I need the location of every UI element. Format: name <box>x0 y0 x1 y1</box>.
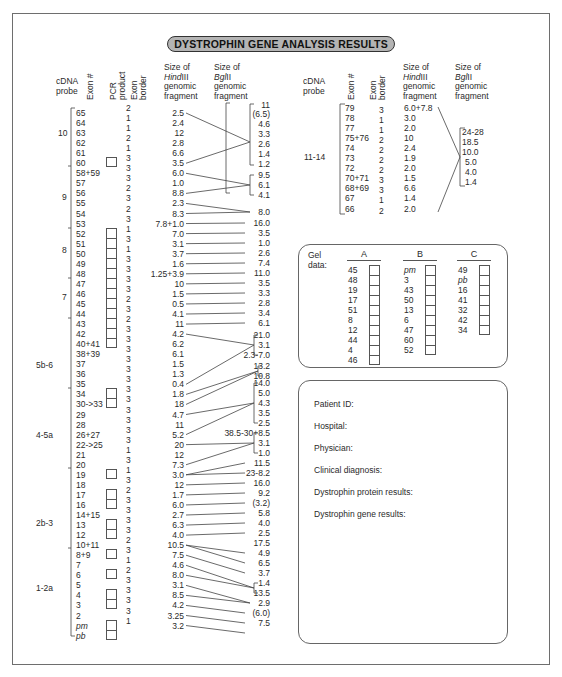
form-field-label[interactable]: Hospital: <box>314 421 347 431</box>
exon-label: 45 <box>76 299 85 309</box>
pcr-product-checkbox[interactable] <box>106 549 117 559</box>
exon-border-value: 3 <box>379 185 384 195</box>
hindiii-value: 4.2 <box>140 329 184 339</box>
gel-exon-label: 17 <box>348 295 357 305</box>
exon-border-value: 3 <box>126 354 131 364</box>
hindiii-value: 1.4 <box>404 193 416 203</box>
gel-result-checkbox-column[interactable] <box>479 265 490 335</box>
hindiii-value: 2.5 <box>140 108 184 118</box>
exon-label: 53 <box>76 219 85 229</box>
header-pcr-product: PCRproduct <box>109 72 127 100</box>
gel-exon-label: 16 <box>458 285 467 295</box>
exon-border-value: 1 <box>126 244 131 254</box>
gel-exon-label: 48 <box>348 275 357 285</box>
exon-border-value: 3 <box>126 254 131 264</box>
header-bglii: Size of BglII genomic fragment <box>214 63 248 101</box>
form-field-label[interactable]: Dystrophin gene results: <box>314 509 406 519</box>
form-field-label[interactable]: Physician: <box>314 443 353 453</box>
exon-border-value: 3 <box>126 415 131 425</box>
gel-exon-label: 4 <box>348 345 353 355</box>
hindiii-value: 3.2 <box>140 621 184 631</box>
bglii-value: 13.2 <box>222 361 270 371</box>
bglii-value: 3.5 <box>222 408 270 418</box>
bglii-value: 38.5-30+8.5 <box>222 428 270 438</box>
bglii-value: 1.2 <box>222 159 270 169</box>
hindiii-value: 4.0 <box>140 530 184 540</box>
gel-exon-label: 12 <box>348 325 357 335</box>
gel-result-checkbox-column[interactable] <box>425 265 436 355</box>
hindiii-value: 8.8 <box>140 188 184 198</box>
pcr-product-checkbox[interactable] <box>106 388 117 408</box>
exon-border-value: 1 <box>126 445 131 455</box>
bglii-value: 3.3 <box>222 288 270 298</box>
bglii-value: 16.0 <box>222 478 270 488</box>
bglii-value: 3.5 <box>222 278 270 288</box>
hindiii-value: 7.0 <box>140 229 184 239</box>
probe-label: 5b-6 <box>36 360 53 370</box>
hindiii-value: 20 <box>140 440 184 450</box>
pcr-product-checkbox[interactable] <box>106 469 117 479</box>
hindiii-value: 11 <box>140 420 184 430</box>
hindiii-value: 6.6 <box>404 183 416 193</box>
gel-column-header-c: C <box>457 248 491 261</box>
bglii-value: 4.1 <box>222 190 270 200</box>
exon-label: 8+9 <box>76 550 90 560</box>
form-field-label[interactable]: Dystrophin protein results: <box>314 487 413 497</box>
bglii-value: 4.9 <box>222 548 270 558</box>
gel-data-panel: Geldata: A454819175181244446Bpm343501364… <box>298 244 508 368</box>
exon-label: 3 <box>76 600 81 610</box>
bglii-value: 5.0 <box>222 388 270 398</box>
hindiii-value: 8.0 <box>140 570 184 580</box>
exon-border-value: 3 <box>379 175 384 185</box>
pcr-product-checkbox[interactable] <box>106 569 117 579</box>
exon-label: 66 <box>345 204 354 214</box>
exon-border-value: 3 <box>126 475 131 485</box>
exon-label: 17 <box>76 490 85 500</box>
hindiii-value: 10 <box>404 133 413 143</box>
exon-label: 4 <box>76 590 81 600</box>
hindiii-value: 4.2 <box>140 600 184 610</box>
hindiii-value: 11 <box>140 319 184 329</box>
gel-exon-label: 49 <box>458 265 467 275</box>
header-cdna-probe: cDNAprobe <box>56 77 78 96</box>
bglii-value: 6.5 <box>222 558 270 568</box>
bglii-value: 13.5 <box>222 588 270 598</box>
hindiii-value: 3.0 <box>140 470 184 480</box>
form-field-label[interactable]: Clinical diagnosis: <box>314 465 382 475</box>
gel-exon-label: 47 <box>404 325 413 335</box>
hindiii-value: 6.6 <box>140 148 184 158</box>
pcr-product-checkbox[interactable] <box>106 489 117 509</box>
gel-exon-label: 60 <box>404 335 413 345</box>
bglii-value: 4.0 <box>465 167 477 177</box>
pcr-product-checkbox[interactable] <box>106 519 117 539</box>
bglii-value: 4.6 <box>222 119 270 129</box>
hindiii-value: 1.8 <box>140 389 184 399</box>
bglii-value: 6.1 <box>222 318 270 328</box>
exon-border-value: 1 <box>379 115 384 125</box>
exon-border-value: 2 <box>126 103 131 113</box>
header-exon-number: Exon # <box>86 74 95 100</box>
exon-label: 42 <box>76 329 85 339</box>
bglii-value: 3.3 <box>222 129 270 139</box>
bglii-value: 2.3-7.0 <box>222 350 270 360</box>
exon-border-value: 2 <box>126 485 131 495</box>
bglii-value: 2.6 <box>222 248 270 258</box>
exon-label: 51 <box>76 239 85 249</box>
exon-border-value: 2 <box>126 294 131 304</box>
hindiii-value: 3.0 <box>404 113 416 123</box>
gel-result-checkbox-column[interactable] <box>369 265 380 365</box>
exon-label: 18 <box>76 480 85 490</box>
pcr-product-checkbox[interactable] <box>106 620 117 640</box>
hindiii-value: 2.3 <box>140 198 184 208</box>
pcr-product-checkbox[interactable] <box>106 589 117 609</box>
exon-label: 57 <box>76 178 85 188</box>
exon-label: 44 <box>76 309 85 319</box>
form-field-label[interactable]: Patient ID: <box>314 399 354 409</box>
exon-label: 36 <box>76 369 85 379</box>
right-probe-label: 11-14 <box>304 152 325 162</box>
pcr-product-checkbox[interactable] <box>106 157 117 167</box>
exon-border-value: 3 <box>126 324 131 334</box>
pcr-product-checkbox[interactable] <box>106 228 117 349</box>
exon-border-value: 3 <box>379 105 384 115</box>
exon-border-value: 3 <box>126 234 131 244</box>
